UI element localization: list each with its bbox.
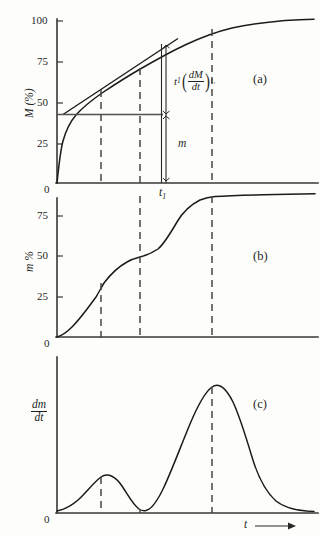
panel-c-origin-label: 0 (44, 514, 50, 525)
x-axis-arrow-head (288, 523, 296, 530)
panel-a-t1-axis-label: t1 (159, 187, 166, 201)
left-paren-icon: ( (182, 73, 187, 90)
panel-a-y-axis-title: M (%) (24, 88, 36, 118)
slope-eval-subscript: t₁ (211, 77, 216, 84)
panel-a-origin-label: 0 (44, 184, 50, 195)
panel-a-slope-annotation: t1(dMdt)t₁ (174, 70, 215, 92)
panel-c-graphics (56, 357, 318, 530)
x-axis-title: t (244, 519, 247, 531)
panel-a-tick-label-50: 50 (37, 97, 48, 108)
panel-a-tick-label-25: 25 (37, 138, 48, 149)
panel-b-tick-label-75: 75 (37, 210, 48, 221)
panel-a-tick-label-100: 100 (31, 15, 48, 26)
panel-b-y-axis-title: m % (24, 251, 36, 272)
panel-a-graphics (56, 19, 318, 183)
slope-denominator: dt (188, 82, 204, 93)
rate-fraction: dmdt (31, 399, 47, 423)
panel-b-curve-m (57, 194, 315, 337)
panel-a-tick-label-75: 75 (37, 56, 48, 67)
t1-subscript: 1 (162, 192, 166, 201)
panel-b-tick-label-25: 25 (37, 291, 48, 302)
panel-b-tick-label-50: 50 (37, 250, 48, 261)
panel-b-tag: (b) (253, 250, 268, 263)
right-paren-icon: ) (205, 73, 210, 90)
slope-numerator: dM (188, 70, 204, 82)
panel-a-curve-M (57, 19, 314, 183)
slope-t-subscript: 1 (177, 77, 181, 84)
figure-canvas (0, 0, 321, 535)
panel-a-tag: (a) (253, 73, 267, 86)
panel-a-m-annotation: m (178, 138, 186, 150)
rate-numerator: dm (31, 399, 47, 412)
panel-c-curve-rate (57, 385, 314, 511)
panel-a-tangent-line (63, 39, 178, 115)
figure-container: 100 75 50 25 0 M (%) (a) t1(dMdt)t₁ m t1… (0, 0, 321, 535)
panel-b-graphics (56, 194, 318, 340)
panel-b-origin-label: 0 (44, 338, 50, 349)
panel-c-y-axis-title: dmdt (31, 399, 47, 423)
slope-fraction: dMdt (188, 70, 204, 92)
panel-c-tag: (c) (253, 398, 267, 411)
rate-denominator: dt (31, 412, 47, 424)
